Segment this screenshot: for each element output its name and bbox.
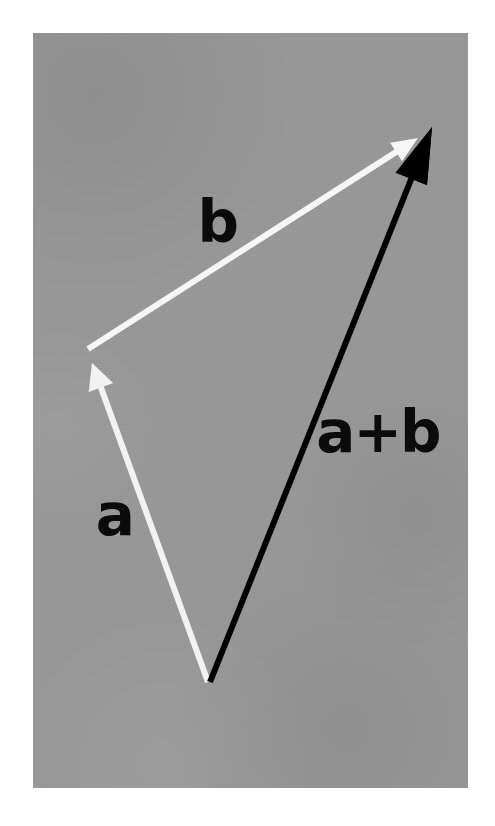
vector-sum-label: a+b xyxy=(316,403,439,461)
vector-addition-figure: b a a+b xyxy=(0,0,495,826)
vector-a-label: a xyxy=(96,486,135,544)
vector-b-label: b xyxy=(197,193,238,251)
vector-b-arrow xyxy=(88,138,418,349)
